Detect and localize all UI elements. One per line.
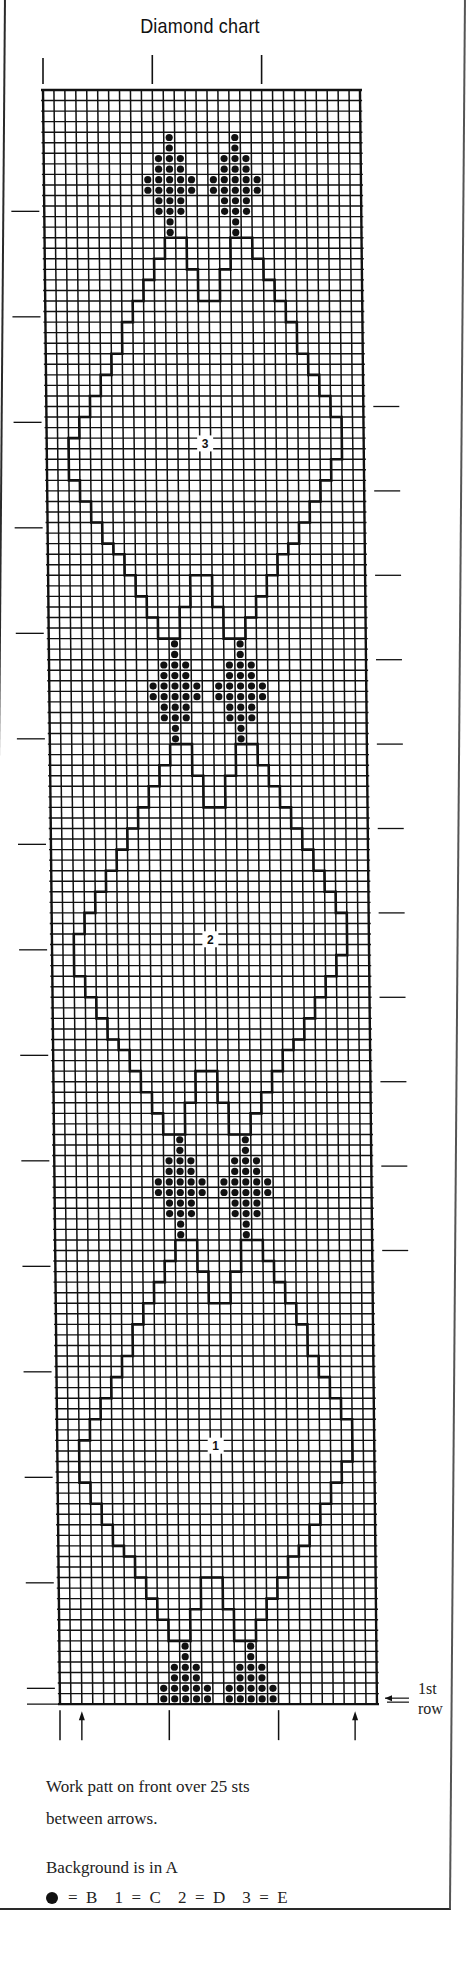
legend-symbol-3: 3: [242, 1883, 251, 1913]
grid-lines: [41, 90, 379, 1704]
instructions-note: Work patt on front over 25 sts between a…: [46, 1771, 250, 1835]
first-row-label: 1st row: [418, 1679, 443, 1719]
background-color-note: Background is in A: [46, 1853, 288, 1883]
legend-value-e: E: [277, 1883, 287, 1913]
dot-symbol-icon: [46, 1892, 58, 1904]
legend-symbol-1: 1: [114, 1883, 123, 1913]
legend-value-d: D: [213, 1883, 225, 1913]
legend-equals: =: [68, 1883, 78, 1913]
diamond-label-2: 2: [207, 933, 214, 947]
diamond-chart-grid: 321: [0, 0, 472, 1962]
legend-row: = B 1 = C 2 = D 3 = E: [46, 1883, 288, 1913]
legend-equals: =: [195, 1883, 205, 1913]
legend-symbol-2: 2: [178, 1883, 187, 1913]
diamond-label-1: 1: [212, 1439, 219, 1453]
legend-equals: =: [259, 1883, 269, 1913]
legend-equals: =: [131, 1883, 141, 1913]
diamond-label-3: 3: [202, 437, 209, 451]
color-key: Background is in A = B 1 = C 2 = D 3 = E: [46, 1853, 288, 1913]
instructions-line-1: Work patt on front over 25 sts: [46, 1771, 250, 1803]
first-row-label-line1: 1st: [418, 1679, 443, 1699]
first-row-label-line2: row: [418, 1699, 443, 1719]
row-ticks: [11, 211, 408, 1688]
instructions-line-2: between arrows.: [46, 1803, 250, 1835]
legend-value-b: B: [86, 1883, 97, 1913]
legend-value-c: C: [150, 1883, 161, 1913]
